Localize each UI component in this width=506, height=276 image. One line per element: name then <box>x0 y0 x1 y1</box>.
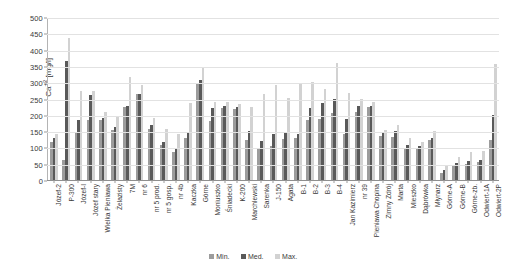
gridline <box>47 67 499 68</box>
gridline <box>47 51 499 52</box>
x-axis-label-cell: B-1 <box>292 184 304 246</box>
bar-max <box>458 157 461 180</box>
x-axis-tick-mark <box>115 180 116 183</box>
x-axis-tick-mark <box>285 180 286 183</box>
x-axis-label-cell: Mieszko <box>402 184 414 246</box>
x-axis-tick-mark <box>273 180 274 183</box>
bar-max <box>177 134 180 180</box>
x-axis-tick-mark <box>492 180 493 183</box>
x-axis-label-cell: Górne-A <box>439 184 451 246</box>
chart-legend: Min.Med.Max. <box>0 253 506 260</box>
bar-max <box>445 165 448 180</box>
bar-max <box>433 131 436 180</box>
x-axis-tick-mark <box>236 180 237 183</box>
x-axis-tick-mark <box>334 180 335 183</box>
x-axis-label-cell: Śniadecki <box>219 184 231 246</box>
y-axis-tick-label: 150 <box>1 128 43 137</box>
bar-max <box>348 93 351 180</box>
x-axis-label-cell: K-200 <box>231 184 243 246</box>
x-axis-label: Odwiert-2P <box>496 184 503 217</box>
y-axis-tick-label: 50 <box>1 160 43 169</box>
x-axis-label-cell: B-3 <box>317 184 329 246</box>
x-axis-label-cell: nr 6 <box>134 184 146 246</box>
bar-max <box>324 89 327 180</box>
x-axis-label-cell: Kaczka <box>182 184 194 246</box>
x-axis-tick-mark <box>310 180 311 183</box>
legend-label: Med. <box>248 253 264 260</box>
legend-swatch-icon <box>275 254 280 259</box>
y-axis-tick-mark <box>44 66 47 67</box>
legend-item[interactable]: Max. <box>275 253 298 260</box>
legend-item[interactable]: Med. <box>241 253 264 260</box>
bar-max <box>336 63 339 180</box>
x-axis-label-cell: Dąbrówka <box>415 184 427 246</box>
x-axis-tick-mark <box>322 180 323 183</box>
x-axis-tick-mark <box>90 180 91 183</box>
y-axis-tick-mark <box>44 148 47 149</box>
legend-swatch-icon <box>209 254 214 259</box>
bar-max <box>250 107 253 180</box>
legend-label: Max. <box>282 253 297 260</box>
bar-max <box>226 102 229 180</box>
bar-max <box>287 98 290 180</box>
plot-area <box>47 18 499 181</box>
gridline <box>47 132 499 133</box>
x-axis-tick-mark <box>175 180 176 183</box>
y-axis-tick-label: 450 <box>1 30 43 39</box>
y-axis-tick-mark <box>44 83 47 84</box>
bar-max <box>384 130 387 180</box>
x-axis-tick-mark <box>78 180 79 183</box>
x-axis-tick-mark <box>102 180 103 183</box>
x-axis-tick-mark <box>383 180 384 183</box>
bar-max <box>68 38 71 180</box>
x-axis-label-cell: Odwiert-1A <box>476 184 488 246</box>
gridline <box>47 34 499 35</box>
x-axis-tick-mark <box>139 180 140 183</box>
x-axis-tick-mark <box>395 180 396 183</box>
y-axis-tick-label: 200 <box>1 111 43 120</box>
x-axis-tick-mark <box>370 180 371 183</box>
x-axis-label-cell: nr 5 gosp. <box>158 184 170 246</box>
bar-max <box>263 94 266 180</box>
x-axis-label-cell: Józef-I <box>72 184 84 246</box>
x-axis-tick-mark <box>188 180 189 183</box>
bar-max <box>409 138 412 180</box>
y-axis-tick-mark <box>44 99 47 100</box>
x-axis-label-cell: Jan Kazimierz <box>341 184 353 246</box>
x-axis-label-cell: 7M <box>121 184 133 246</box>
bar-max <box>372 102 375 180</box>
bar-max <box>80 91 83 180</box>
gridline <box>47 18 499 19</box>
bar-max <box>421 142 424 180</box>
bar-max <box>202 68 205 180</box>
legend-item[interactable]: Min. <box>209 253 230 260</box>
y-axis-tick-label: 0 <box>1 177 43 186</box>
x-axis-label-cell: Marta <box>390 184 402 246</box>
x-axis-tick-mark <box>127 180 128 183</box>
bar-max <box>470 152 473 180</box>
x-axis-label-cell: Górne-B <box>451 184 463 246</box>
x-axis-label-cell: Józef-2 <box>48 184 60 246</box>
legend-label: Min. <box>216 253 229 260</box>
x-axis-label-cell: nr 39 <box>353 184 365 246</box>
x-axis-tick-mark <box>407 180 408 183</box>
x-axis-label-cell: Żelazisty <box>109 184 121 246</box>
gridline <box>47 165 499 166</box>
x-axis-tick-mark <box>480 180 481 183</box>
x-axis-label-cell: J-150 <box>268 184 280 246</box>
x-axis-tick-mark <box>261 180 262 183</box>
gridline <box>47 116 499 117</box>
x-axis-label-cell: nr 5 prod. <box>146 184 158 246</box>
x-axis-tick-mark <box>163 180 164 183</box>
y-axis-tick-label: 500 <box>1 14 43 23</box>
bar-chart: Ca+2 [mg/l] 0501001502002503003504004505… <box>0 0 506 276</box>
x-axis-label-cell: Górne-zb. <box>463 184 475 246</box>
x-axis-label-cell: Sarenka <box>256 184 268 246</box>
y-axis-tick-label: 350 <box>1 62 43 71</box>
bar-max <box>397 125 400 180</box>
x-axis-label-cell: Agata <box>280 184 292 246</box>
bar-max <box>360 99 363 180</box>
x-axis-tick-mark <box>66 180 67 183</box>
x-axis-tick-mark <box>224 180 225 183</box>
y-axis-tick-mark <box>44 34 47 35</box>
